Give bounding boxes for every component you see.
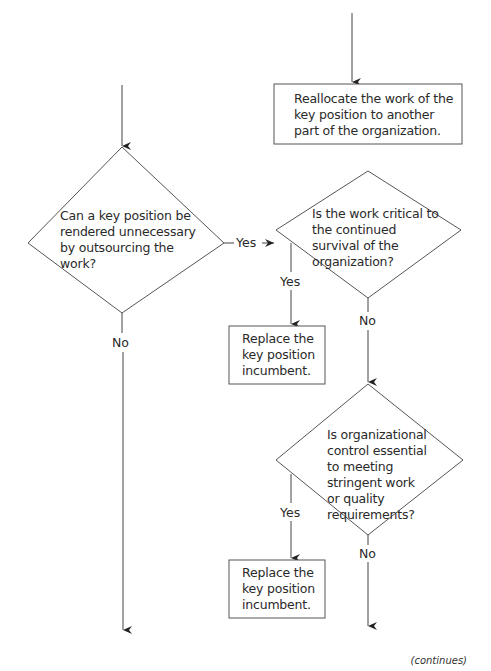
outsourcing-no-label: No xyxy=(112,335,129,350)
outsourcing-yes-label: Yes xyxy=(236,235,256,250)
critical-decision-text: Is the work critical to the continued su… xyxy=(312,206,442,270)
critical-no-label: No xyxy=(359,313,376,328)
control-decision-text: Is organizational control essential to m… xyxy=(327,427,429,523)
reallocate-box-text: Reallocate the work of the key position … xyxy=(294,91,462,139)
continues-note: (continues) xyxy=(411,655,468,666)
outsourcing-decision-text: Can a key position be rendered unnecessa… xyxy=(60,208,210,272)
control-yes-label: Yes xyxy=(280,505,300,520)
critical-yes-label: Yes xyxy=(280,274,300,289)
replace-box-2-text: Replace the key position incumbent. xyxy=(242,565,322,613)
control-no-label: No xyxy=(359,546,376,561)
replace-box-1-text: Replace the key position incumbent. xyxy=(242,331,322,379)
